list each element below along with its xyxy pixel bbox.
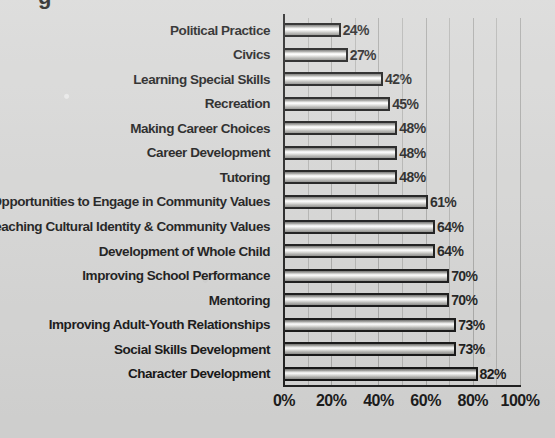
- category-label: Social Skills Development: [114, 337, 276, 362]
- bar-value-label: 64%: [437, 243, 463, 259]
- bar: 24%: [284, 23, 341, 37]
- category-label: Improving Adult-Youth Relationships: [49, 312, 276, 337]
- category-label: Tutoring: [220, 165, 276, 190]
- bar-value-label: 64%: [437, 219, 463, 235]
- category-label: Improving School Performance: [82, 263, 276, 288]
- category-label: Learning Special Skills: [133, 67, 276, 92]
- category-label: Recreation: [205, 92, 276, 117]
- bar-row: 61%: [284, 190, 520, 215]
- category-label: Teaching Cultural Identity & Community V…: [0, 214, 276, 239]
- bar: 73%: [284, 342, 456, 356]
- bar-value-label: 61%: [430, 194, 456, 210]
- bar: 42%: [284, 72, 383, 86]
- bar-value-label: 48%: [399, 120, 425, 136]
- category-label: Mentoring: [209, 288, 276, 313]
- bar-row: 48%: [284, 116, 520, 141]
- x-axis-line: [283, 385, 521, 387]
- bar: 64%: [284, 244, 435, 258]
- category-axis-labels: Political PracticeCivicsLearning Special…: [0, 18, 276, 386]
- gridline-100: [520, 18, 521, 386]
- chart-title-fragment: g: [38, 0, 51, 10]
- bar-value-label: 45%: [392, 96, 418, 112]
- x-tick-label: 80%: [458, 392, 489, 410]
- bar: 82%: [284, 367, 478, 381]
- x-tick-label: 60%: [410, 392, 441, 410]
- bar-value-label: 24%: [343, 22, 369, 38]
- bar-value-label: 42%: [385, 71, 411, 87]
- bar-row: 73%: [284, 312, 520, 337]
- bar-value-label: 73%: [458, 317, 484, 333]
- bar-row: 82%: [284, 361, 520, 386]
- bar: 45%: [284, 97, 390, 111]
- bar-value-label: 48%: [399, 169, 425, 185]
- category-label: Civics: [233, 43, 276, 68]
- plot-area: 24%27%42%45%48%48%48%61%64%64%70%70%73%7…: [284, 18, 520, 386]
- bar-row: 42%: [284, 67, 520, 92]
- bar-row: 24%: [284, 18, 520, 43]
- x-tick-label: 0%: [273, 392, 295, 410]
- y-axis-line: [283, 14, 285, 386]
- bar: 70%: [284, 269, 449, 283]
- bar-row: 70%: [284, 263, 520, 288]
- bar: 48%: [284, 170, 397, 184]
- bar: 48%: [284, 146, 397, 160]
- bar-value-label: 27%: [350, 47, 376, 63]
- bar-row: 64%: [284, 239, 520, 264]
- bar-row: 48%: [284, 141, 520, 166]
- category-label: Career Development: [147, 141, 276, 166]
- bar-row: 45%: [284, 92, 520, 117]
- bar-row: 27%: [284, 43, 520, 68]
- bar: 73%: [284, 318, 456, 332]
- bar: 48%: [284, 121, 397, 135]
- bar-value-label: 73%: [458, 341, 484, 357]
- x-tick-label: 100%: [501, 392, 540, 410]
- bar-value-label: 82%: [480, 366, 506, 382]
- x-tick-label: 40%: [363, 392, 394, 410]
- bar-value-label: 48%: [399, 145, 425, 161]
- bar-row: 48%: [284, 165, 520, 190]
- x-axis-tick-labels: 0%20%40%60%80%100%: [284, 392, 520, 418]
- bar-series: 24%27%42%45%48%48%48%61%64%64%70%70%73%7…: [284, 18, 520, 386]
- chart-page: g Political PracticeCivicsLearning Speci…: [0, 0, 555, 438]
- bar: 27%: [284, 48, 348, 62]
- category-label: Political Practice: [170, 18, 276, 43]
- x-tick-label: 20%: [316, 392, 347, 410]
- category-label: Making Career Choices: [130, 116, 276, 141]
- bar: 70%: [284, 293, 449, 307]
- category-label: Opportunities to Engage in Community Val…: [0, 190, 276, 215]
- category-label: Development of Whole Child: [99, 239, 276, 264]
- bar-value-label: 70%: [451, 292, 477, 308]
- bar: 61%: [284, 195, 428, 209]
- bar-row: 64%: [284, 214, 520, 239]
- bar-row: 70%: [284, 288, 520, 313]
- category-label: Character Development: [128, 361, 276, 386]
- bar-value-label: 70%: [451, 268, 477, 284]
- bar-row: 73%: [284, 337, 520, 362]
- bar: 64%: [284, 220, 435, 234]
